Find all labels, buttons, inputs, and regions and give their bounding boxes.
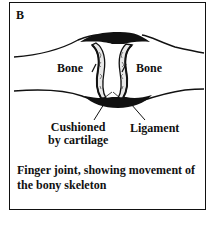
- cushioned-leader-line: [94, 104, 104, 120]
- bone-right-label: Bone: [136, 62, 162, 75]
- upper-bone-outline-right: [142, 35, 204, 53]
- joint-capsule-top: [80, 32, 150, 44]
- cartilage-label-line2: by cartilage: [48, 134, 108, 147]
- ligament-leader-line: [131, 104, 145, 120]
- lower-bone-outline-right: [138, 89, 204, 102]
- figure-caption: Finger joint, showing movement of the bo…: [17, 163, 205, 193]
- cartilage-label: Cushioned by cartilage: [48, 121, 108, 147]
- ligament-label: Ligament: [130, 122, 179, 135]
- bone-left-label: Bone: [57, 62, 83, 75]
- left-bone-mark: [92, 64, 96, 72]
- joint-space-line-left: [104, 92, 112, 98]
- right-cartilage: [118, 44, 132, 98]
- lower-bone-outline: [14, 90, 100, 102]
- upper-bone-outline: [14, 35, 98, 57]
- left-cartilage: [92, 43, 106, 98]
